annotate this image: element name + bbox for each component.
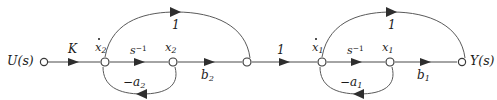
signal-flow-graph-figure: U(s) Y(s) x2 x2 x1 x1 K s−1 b2 1 s−1 b1 …	[0, 0, 497, 100]
node-xdot1[interactable]	[318, 58, 326, 66]
label-node-x2: x2	[165, 42, 176, 55]
label-gain-unity-top-right: 1	[388, 19, 396, 31]
label-gain-k: K	[68, 43, 77, 55]
label-gain-neg-a1: −a1	[340, 76, 362, 89]
label-gain-neg-a1-base: −a	[340, 75, 357, 89]
node-junction[interactable]	[243, 58, 251, 66]
label-gain-unity-top-left: 1	[172, 19, 180, 31]
label-gain-neg-a2-base: −a	[123, 75, 140, 89]
label-gain-s-inverse-left: s−1	[130, 45, 147, 56]
arrowhead-gain-s-inverse-left	[134, 58, 145, 66]
label-gain-b1-sub: 1	[425, 73, 430, 83]
label-node-output-y: Y(s)	[470, 55, 494, 68]
label-gain-s-inverse-left-sup: −1	[136, 44, 147, 53]
label-gain-s-inverse-right-sup: −1	[353, 44, 364, 53]
label-gain-neg-a1-sub: 1	[357, 80, 362, 90]
arrowhead-gain-b1	[420, 58, 431, 66]
arrowhead-gain-unity-mid	[279, 58, 290, 66]
label-gain-b1: b1	[417, 69, 430, 82]
label-node-xdot2: x2	[95, 42, 106, 55]
node-input-u[interactable]	[40, 58, 47, 65]
label-gain-neg-a2-sub: 2	[140, 80, 145, 90]
label-node-xdot1-base: x	[312, 40, 319, 54]
arrowhead-upper-arc-left	[170, 7, 181, 17]
label-gain-b2-base: b	[201, 68, 209, 82]
arrowhead-upper-arc-right	[386, 7, 397, 17]
node-output-y[interactable]	[458, 58, 465, 65]
label-gain-unity-mid: 1	[277, 44, 285, 56]
label-node-xdot2-sub: 2	[102, 46, 107, 55]
label-gain-b1-base: b	[417, 68, 425, 82]
label-node-xdot2-base: x	[95, 40, 102, 54]
label-node-x1: x1	[382, 42, 393, 55]
label-node-x2-sub: 2	[172, 46, 177, 55]
arrowhead-gain-s-inverse-right	[351, 58, 362, 66]
label-node-xdot1-sub: 1	[319, 46, 324, 55]
label-node-input-u: U(s)	[7, 55, 34, 68]
label-node-x1-sub: 1	[389, 46, 394, 55]
label-gain-neg-a2: −a2	[123, 76, 145, 89]
arrowhead-feedback-right	[353, 89, 364, 99]
arrowhead-gain-b2	[204, 58, 215, 66]
label-node-xdot1: x1	[312, 42, 323, 55]
node-xdot2[interactable]	[101, 58, 109, 66]
label-gain-s-inverse-right: s−1	[347, 45, 364, 56]
label-gain-b2-sub: 2	[209, 73, 214, 83]
label-gain-b2: b2	[201, 69, 214, 82]
arrowhead-gain-k	[68, 58, 79, 66]
node-x2[interactable]	[169, 58, 177, 66]
node-x1[interactable]	[386, 58, 394, 66]
arrowhead-feedback-left	[136, 89, 147, 99]
